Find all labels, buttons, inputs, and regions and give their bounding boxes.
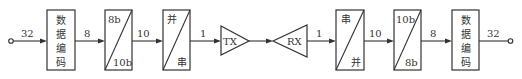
link-label-output: 32 <box>487 28 500 39</box>
block-tx-driver: TX <box>221 26 249 55</box>
block-rx-receiver: RX <box>273 25 307 57</box>
block-bottom-label: 8b <box>405 57 418 68</box>
link-label: 10 <box>369 28 382 39</box>
input-terminal-icon <box>9 39 14 44</box>
block-8b10b-encoder: 8b 10b <box>105 10 132 70</box>
link-label: 1 <box>316 28 322 39</box>
arrow-icon <box>214 39 221 44</box>
arrow-icon <box>98 39 105 44</box>
rx-label: RX <box>287 36 303 47</box>
block-label-char: 码 <box>461 57 471 68</box>
output-terminal-icon <box>508 39 513 44</box>
tx-label: TX <box>223 36 238 47</box>
block-serial-to-parallel: 串 并 <box>336 10 364 70</box>
link-label: 8 <box>430 28 436 39</box>
block-parallel-to-serial: 并 串 <box>163 10 190 70</box>
block-bottom-label: 并 <box>351 56 361 68</box>
block-10b8b-decoder: 10b 8b <box>394 10 421 70</box>
block-label-char: 数 <box>56 14 66 26</box>
block-top-label: 串 <box>341 14 351 25</box>
link-label: 8 <box>84 28 90 39</box>
block-label-char: 据 <box>56 28 66 40</box>
block-data-encode-tx: 数 据 编 码 <box>47 10 75 70</box>
block-label-char: 据 <box>461 28 471 40</box>
link-label: 10 <box>137 28 150 39</box>
arrow-icon <box>156 39 163 44</box>
link-label-input: 32 <box>21 28 34 39</box>
block-data-encode-rx: 数 据 编 码 <box>452 10 479 70</box>
block-label-char: 码 <box>56 57 66 68</box>
block-label-char: 数 <box>461 14 471 26</box>
arrow-icon <box>329 39 336 44</box>
block-label-char: 编 <box>461 42 471 54</box>
arrow-icon <box>387 39 394 44</box>
block-bottom-label: 串 <box>177 57 187 68</box>
block-label-char: 编 <box>56 42 66 54</box>
serdes-block-diagram: 32 数 据 编 码 8 8b 10b 10 并 串 1 TX RX <box>0 0 522 79</box>
block-bottom-label: 10b <box>113 57 132 68</box>
link-label: 1 <box>200 28 206 39</box>
block-top-label: 8b <box>108 14 121 25</box>
block-top-label: 10b <box>396 14 415 25</box>
block-top-label: 并 <box>167 13 177 25</box>
arrow-icon <box>445 39 452 44</box>
arrow-icon <box>40 39 47 44</box>
